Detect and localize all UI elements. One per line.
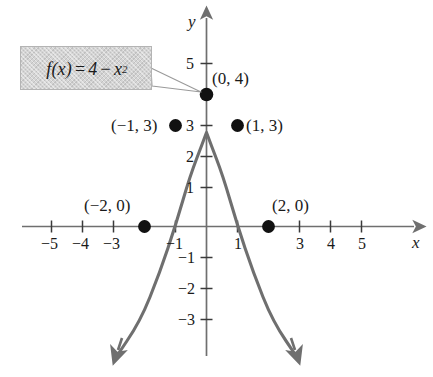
point-label-left-mid: (−1, 3) xyxy=(111,117,157,134)
point-left-root xyxy=(138,220,151,233)
callout-equation-text: f(x) = 4 − x2 xyxy=(21,47,153,91)
y-tick-label-1: 1 xyxy=(186,180,194,196)
y-axis-label: y xyxy=(188,13,196,30)
x-axis-label: x xyxy=(412,234,420,251)
x-tick-label-4: 4 xyxy=(327,236,335,252)
y-tick-label-minus1: −1 xyxy=(178,250,195,266)
y-tick-label-minus3: −3 xyxy=(178,312,195,328)
x-tick-label-minus5: −5 xyxy=(41,236,58,252)
x-tick-label-minus3: −3 xyxy=(103,236,120,252)
point-label-vertex: (0, 4) xyxy=(212,70,249,87)
y-tick-label-5: 5 xyxy=(186,56,194,72)
point-label-right-mid: (1, 3) xyxy=(246,117,283,134)
point-label-left-root: (−2, 0) xyxy=(84,197,130,214)
y-tick-label-minus2: −2 xyxy=(178,281,195,297)
equation-callout: f(x) = 4 − x2 xyxy=(20,46,152,90)
equation-minus: − xyxy=(98,59,114,80)
equation-constant: 4 xyxy=(88,59,97,80)
x-tick-label-5: 5 xyxy=(358,236,366,252)
equation-f-part: f(x) xyxy=(46,59,72,80)
point-right-mid xyxy=(231,119,244,132)
x-tick-label-minus4: −4 xyxy=(72,236,89,252)
point-label-right-root: (2, 0) xyxy=(272,197,309,214)
parabola-figure: f(x) = 4 − x2 y x −5 −4 −3 −1 1 3 4 5 5 … xyxy=(0,0,433,377)
equation-equals: = xyxy=(72,59,88,80)
x-tick-label-3: 3 xyxy=(296,236,304,252)
point-left-mid xyxy=(169,119,182,132)
equation-variable: x xyxy=(114,59,122,80)
x-tick-label-1: 1 xyxy=(234,236,242,252)
y-tick-label-3: 3 xyxy=(186,118,194,134)
y-tick-label-2: 2 xyxy=(186,149,194,165)
point-vertex xyxy=(200,88,214,102)
point-right-root xyxy=(262,220,275,233)
